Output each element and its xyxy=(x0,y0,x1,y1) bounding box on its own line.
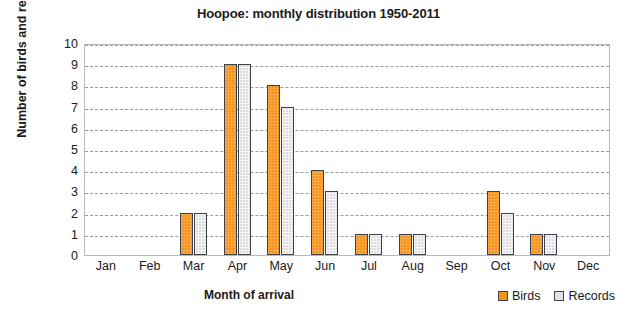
bar-group xyxy=(304,45,348,255)
y-tick-label: 6 xyxy=(71,122,78,136)
chart-legend: BirdsRecords xyxy=(498,289,615,303)
y-tick-label: 8 xyxy=(71,79,78,93)
x-axis-tick-labels: JanFebMarAprMayJunJulAugSepOctNovDec xyxy=(84,259,610,279)
y-tick-label: 1 xyxy=(71,228,78,242)
bar-birds-mar xyxy=(180,213,193,255)
bar-group xyxy=(129,45,173,255)
bar-records-jul xyxy=(369,234,382,255)
x-tick-label: Aug xyxy=(391,259,435,273)
bar-birds-jul xyxy=(355,234,368,255)
bar-birds-aug xyxy=(399,234,412,255)
x-tick-label: Jul xyxy=(347,259,391,273)
bar-records-may xyxy=(281,107,294,255)
y-tick-label: 10 xyxy=(64,37,78,51)
x-tick-label: Feb xyxy=(128,259,172,273)
bar-records-nov xyxy=(544,234,557,255)
bar-birds-may xyxy=(267,85,280,255)
x-tick-label: Nov xyxy=(522,259,566,273)
legend-item-records[interactable]: Records xyxy=(554,289,615,303)
x-tick-label: Dec xyxy=(566,259,610,273)
y-tick-label: 2 xyxy=(71,207,78,221)
x-tick-label: Apr xyxy=(216,259,260,273)
bar-group xyxy=(567,45,611,255)
y-tick-label: 3 xyxy=(71,185,78,199)
bar-group xyxy=(260,45,304,255)
bar-group xyxy=(217,45,261,255)
plot-area xyxy=(84,44,610,256)
x-tick-label: Oct xyxy=(479,259,523,273)
chart-title: Hoopoe: monthly distribution 1950-2011 xyxy=(0,6,637,21)
y-tick-label: 5 xyxy=(71,143,78,157)
y-tick-label: 9 xyxy=(71,58,78,72)
legend-swatch-birds-icon xyxy=(498,291,508,301)
x-tick-label: Mar xyxy=(172,259,216,273)
x-tick-label: Jan xyxy=(84,259,128,273)
x-tick-label: May xyxy=(259,259,303,273)
bar-chart: Hoopoe: monthly distribution 1950-2011 N… xyxy=(0,0,637,323)
bar-group xyxy=(523,45,567,255)
bar-birds-apr xyxy=(224,64,237,255)
y-axis-tick-labels: 012345678910 xyxy=(50,44,78,256)
x-tick-label: Sep xyxy=(435,259,479,273)
bar-group xyxy=(348,45,392,255)
legend-item-birds[interactable]: Birds xyxy=(498,289,540,303)
bar-records-mar xyxy=(194,213,207,255)
bar-birds-nov xyxy=(530,234,543,255)
legend-label: Records xyxy=(568,289,615,303)
bar-group xyxy=(85,45,129,255)
y-tick-label: 0 xyxy=(71,249,78,263)
y-tick-label: 7 xyxy=(71,101,78,115)
bar-records-aug xyxy=(413,234,426,255)
x-axis-title: Month of arrival xyxy=(84,288,414,302)
bar-group xyxy=(173,45,217,255)
bars-layer xyxy=(85,45,609,255)
bar-records-jun xyxy=(325,191,338,255)
legend-swatch-records-icon xyxy=(554,291,564,301)
bar-birds-oct xyxy=(487,191,500,255)
bar-records-apr xyxy=(238,64,251,255)
x-tick-label: Jun xyxy=(303,259,347,273)
bar-group xyxy=(480,45,524,255)
bar-group xyxy=(392,45,436,255)
bar-birds-jun xyxy=(311,170,324,255)
y-axis-title: Number of birds and records xyxy=(15,0,29,160)
bar-group xyxy=(436,45,480,255)
bar-records-oct xyxy=(501,213,514,255)
y-tick-label: 4 xyxy=(71,164,78,178)
legend-label: Birds xyxy=(512,289,540,303)
